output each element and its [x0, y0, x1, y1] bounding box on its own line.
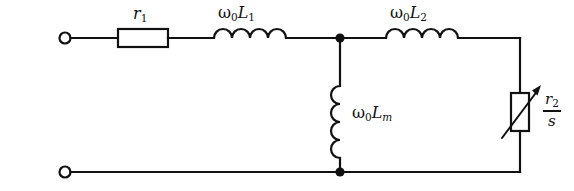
label-omega0-lm: ω0Lm: [352, 105, 392, 122]
label-s-denominator: s: [543, 113, 561, 129]
label-lm-omega: ω: [352, 103, 365, 122]
variable-resistor-arrow-head-icon: [532, 85, 541, 96]
label-l2-subscript: 2: [420, 11, 427, 23]
inductor-lm-symbol: [331, 86, 340, 158]
label-l2-omega: ω: [390, 3, 403, 22]
label-r2-over-s: r2 s: [543, 92, 561, 129]
circuit-diagram: r1 ω0L1 ω0L2 ω0Lm r2 s: [0, 0, 574, 191]
label-lm-omega-subscript: 0: [365, 111, 372, 123]
label-l1-symbol: L: [238, 3, 249, 22]
schematic-canvas: [0, 0, 574, 191]
input-terminal-top-icon: [60, 33, 71, 44]
label-l2-symbol: L: [410, 3, 421, 22]
resistor-r1-symbol: [118, 29, 168, 47]
inductor-l2-symbol: [386, 29, 458, 38]
label-l1-subscript: 1: [248, 11, 255, 23]
inductor-l1-symbol: [214, 29, 286, 38]
label-l1-omega: ω: [218, 3, 231, 22]
label-lm-symbol: L: [372, 103, 383, 122]
label-l1-omega-subscript: 0: [231, 11, 238, 23]
label-l2-omega-subscript: 0: [403, 11, 410, 23]
label-omega0-l1: ω0L1: [218, 5, 255, 22]
label-lm-subscript: m: [382, 111, 392, 123]
label-r2-numerator: r2: [543, 92, 561, 109]
variable-resistor-symbol: [511, 93, 529, 131]
label-r1-subscript: 1: [141, 12, 148, 24]
label-r2-subscript: 2: [552, 97, 559, 109]
input-terminal-bottom-icon: [60, 167, 71, 178]
label-r1: r1: [133, 6, 147, 23]
label-r1-symbol: r: [133, 4, 141, 23]
label-omega0-l2: ω0L2: [390, 5, 427, 22]
